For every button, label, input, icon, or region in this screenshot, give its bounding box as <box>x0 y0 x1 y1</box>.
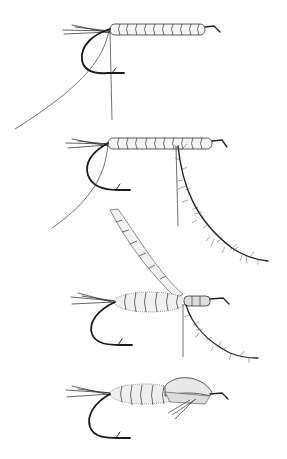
step-1-fly <box>15 24 220 129</box>
fly-tying-diagram: Tail tied in, segmented underbody wound,… <box>0 0 287 459</box>
illustration: Nymph fly tying sequence <box>0 0 287 459</box>
step-2-fly <box>52 138 268 265</box>
step-3-fly <box>71 209 258 363</box>
step-4-fly <box>66 378 228 438</box>
